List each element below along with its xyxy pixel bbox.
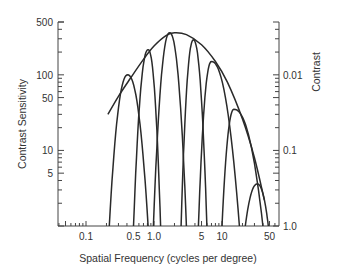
x-tick-label: 0.1 [79, 231, 93, 242]
x-tick-label: 10 [216, 231, 228, 242]
y-tick-label-right: 0.1 [283, 145, 297, 156]
y-tick-label-right: 0.01 [283, 70, 303, 81]
y-tick-label-left: 5 [47, 168, 53, 179]
y-axis-title-left: Contrast Sensitivity [16, 78, 28, 169]
curves [108, 33, 268, 226]
x-axis-title: Spatial Frequency (cycles per degree) [79, 252, 256, 264]
x-tick-label: 1.0 [147, 231, 161, 242]
x-tick-label: 5 [199, 231, 205, 242]
x-tick-label: 50 [264, 231, 276, 242]
y-tick-label-left: 10 [42, 145, 54, 156]
y-tick-label-left: 100 [36, 70, 53, 81]
y-tick-label-left: 50 [42, 93, 54, 104]
envelope-curve [108, 33, 264, 200]
y-axis-title-right: Contrast [310, 52, 322, 92]
channel-curve [109, 75, 148, 226]
channel-curve [198, 62, 239, 227]
x-tick-label: 0.5 [127, 231, 141, 242]
y-tick-label-right: 1.0 [283, 221, 297, 232]
tick-labels: 0.10.51.051050500100501050.010.11.0 [36, 17, 303, 242]
contrast-sensitivity-chart: 0.10.51.051050500100501050.010.11.0 Spat… [0, 0, 346, 276]
channel-curve [245, 184, 268, 226]
y-tick-label-left: 500 [36, 17, 53, 28]
